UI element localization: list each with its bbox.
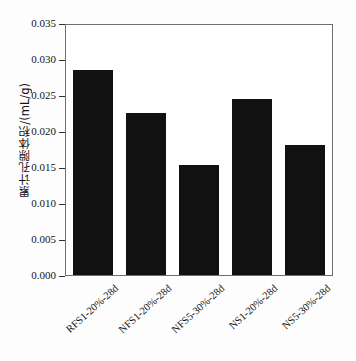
bar	[73, 70, 113, 275]
y-axis-tick-label: 0.005	[10, 234, 56, 245]
y-axis-tick	[59, 276, 65, 277]
y-axis-tick-label: 0.020	[10, 126, 56, 137]
bar-series	[66, 25, 332, 275]
bar	[179, 165, 219, 275]
y-axis-tick-label: 0.000	[10, 270, 56, 281]
bar	[285, 145, 325, 275]
bar	[126, 113, 166, 275]
y-axis-tick-label: 0.015	[10, 162, 56, 173]
y-axis-tick-label: 0.010	[10, 198, 56, 209]
y-axis-tick-label: 0.025	[10, 90, 56, 101]
bar-chart-figure: 累计孔隙体积/(mL/g) 0.0000.0050.0100.0150.0200…	[0, 0, 356, 361]
y-axis-tick-label: 0.035	[10, 18, 56, 29]
y-axis-tick-label: 0.030	[10, 54, 56, 65]
bar	[232, 99, 272, 275]
x-axis-tick-labels: RFS1-20%-28dNFS1-20%-28dNFS5-30%-28dNS1-…	[66, 278, 332, 358]
